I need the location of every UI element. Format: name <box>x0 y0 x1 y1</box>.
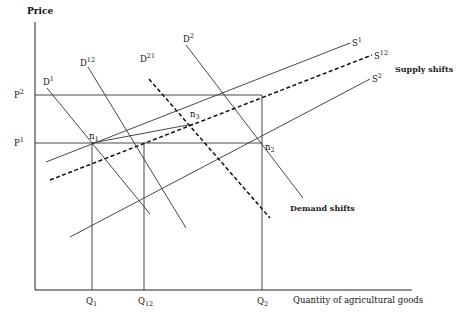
demand-curve-d12 <box>88 67 186 228</box>
point-label-n2: n2 <box>265 142 275 154</box>
supply-demand-diagram: Price Quantity of agricultural goods P2 … <box>0 0 467 319</box>
point-label-n3: n3 <box>190 109 200 121</box>
demand-label-d2: D2 <box>183 32 194 44</box>
quantity-label-q2: Q2 <box>257 296 268 308</box>
supply-shifts-annotation: Supply shifts <box>395 64 454 74</box>
supply-label-s2: S2 <box>372 72 382 84</box>
quantity-label-q12: Q12 <box>138 296 153 308</box>
y-axis-label: Price <box>27 6 53 16</box>
supply-curve-s12 <box>50 55 372 180</box>
demand-shifts-annotation: Demand shifts <box>290 203 355 213</box>
demand-label-d21: D21 <box>140 52 155 64</box>
x-axis-label: Quantity of agricultural goods <box>293 295 423 305</box>
quantity-label-q1: Q1 <box>86 296 97 308</box>
supply-label-s1: S1 <box>352 36 362 48</box>
price-label-p1: P1 <box>14 136 24 148</box>
demand-label-d12: D12 <box>80 56 95 68</box>
supply-label-s12: S12 <box>374 49 388 61</box>
demand-label-d1: D1 <box>43 75 54 87</box>
demand-curve-d1 <box>47 88 150 214</box>
supply-curve-s2 <box>70 79 370 237</box>
price-label-p2: P2 <box>14 88 24 100</box>
n1-n3-connector <box>92 124 193 143</box>
